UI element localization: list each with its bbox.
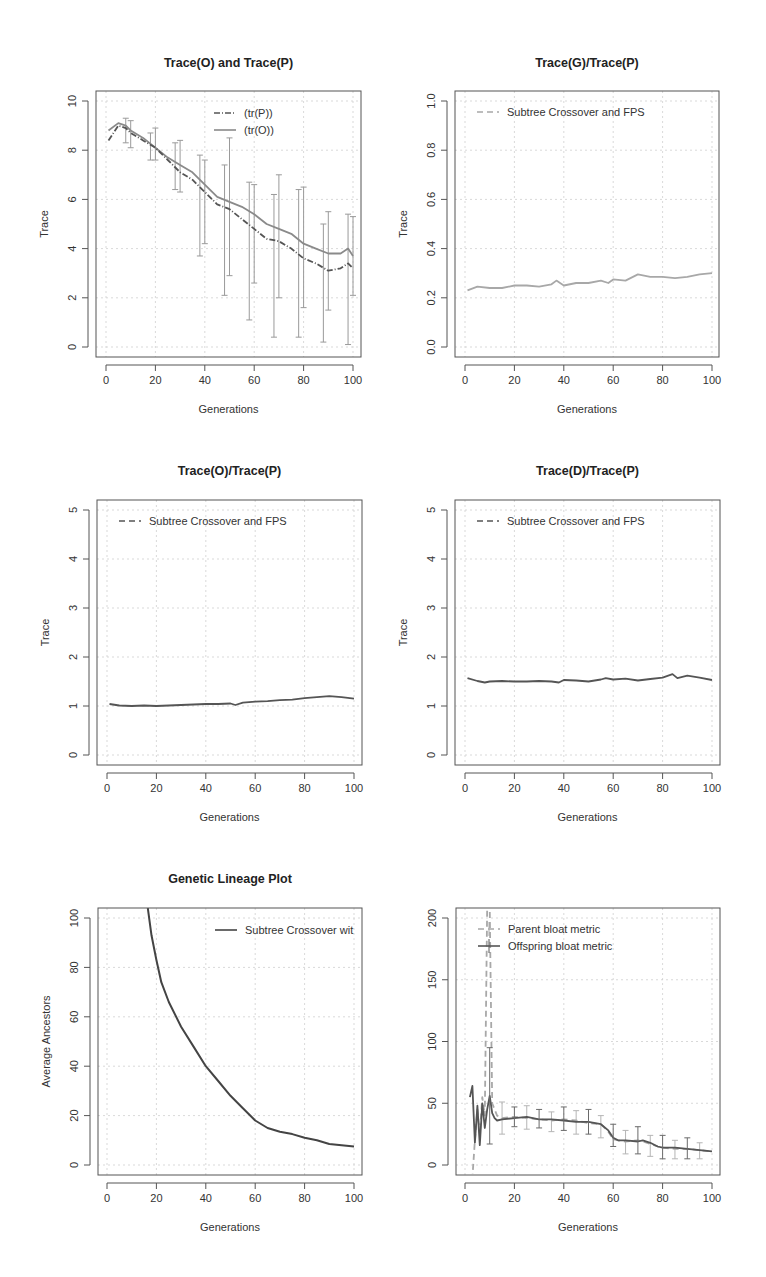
x-axis-label: Generations (558, 811, 618, 823)
grid-lines (455, 91, 719, 357)
y-axis: 0246810Trace (38, 95, 88, 350)
x-tick-label: 0 (104, 1192, 110, 1204)
x-axis-label: Generations (199, 403, 259, 415)
x-tick-label: 60 (607, 374, 619, 386)
legend-label: (tr(P)) (244, 107, 273, 119)
y-tick-label: 1 (67, 703, 79, 709)
legend-label: Offspring bloat metric (508, 940, 613, 952)
chart-title: Trace(O) and Trace(P) (164, 56, 293, 70)
x-axis-label: Generations (557, 403, 617, 415)
x-tick-label: 40 (558, 1192, 570, 1204)
x-axis: 020406080100Generations (462, 1183, 721, 1233)
y-axis: 012345Trace (397, 507, 447, 758)
y-axis: 0.00.20.40.60.81.0Trace (397, 93, 447, 354)
legend-label: Subtree Crossover and FPS (149, 515, 287, 527)
y-tick-label: 0.6 (425, 192, 437, 207)
y-tick-label: 60 (68, 1011, 80, 1023)
x-tick-label: 80 (656, 374, 668, 386)
y-tick-label: 0.2 (425, 290, 437, 305)
x-axis-label: Generations (200, 811, 260, 823)
legend-label: Parent bloat metric (508, 923, 601, 935)
x-tick-label: 100 (703, 374, 721, 386)
x-tick-label: 20 (508, 1192, 520, 1204)
x-tick-label: 0 (462, 782, 468, 794)
y-tick-label: 2 (66, 295, 78, 301)
chart-legend: Subtree Crossover and FPS (477, 515, 645, 527)
y-tick-label: 0 (68, 1162, 80, 1168)
plot-area (110, 696, 355, 706)
plot-area (109, 118, 357, 344)
y-tick-label: 10 (66, 95, 78, 107)
x-axis: 020406080100Generations (462, 365, 721, 415)
x-tick-label: 100 (345, 782, 363, 794)
series-line (468, 674, 713, 682)
y-tick-label: 150 (426, 971, 438, 989)
grid-lines (97, 500, 362, 765)
y-tick-label: 6 (66, 196, 78, 202)
x-axis-label: Generations (200, 1221, 260, 1233)
x-tick-label: 100 (345, 1192, 363, 1204)
plot-frame (97, 500, 362, 765)
chart-panel-trace-o-and-trace-p: 020406080100Generations0246810TraceTrace… (38, 56, 362, 415)
plot-frame (455, 500, 720, 765)
error-bars (123, 118, 356, 344)
y-axis: 012345Trace (39, 507, 89, 758)
y-axis-label: Trace (397, 619, 409, 647)
x-tick-label: 40 (200, 782, 212, 794)
legend-label: Subtree Crossover wit (245, 924, 353, 936)
x-tick-label: 60 (248, 374, 260, 386)
x-tick-label: 60 (249, 1192, 261, 1204)
y-tick-label: 0 (425, 752, 437, 758)
y-tick-label: 5 (425, 507, 437, 513)
y-tick-label: 50 (426, 1097, 438, 1109)
y-tick-label: 0 (66, 344, 78, 350)
error-bars (499, 1102, 703, 1159)
x-tick-label: 80 (656, 1192, 668, 1204)
chart-title: Genetic Lineage Plot (168, 872, 292, 886)
y-tick-label: 3 (425, 605, 437, 611)
y-tick-label: 0.0 (425, 339, 437, 354)
y-tick-label: 4 (67, 556, 79, 562)
y-tick-label: 0.4 (425, 241, 437, 256)
x-axis: 020406080100Generations (103, 365, 362, 415)
chart-legend: Subtree Crossover and FPS (119, 515, 287, 527)
chart-panel-trace-g-over-trace-p: 020406080100Generations0.00.20.40.60.81.… (397, 56, 721, 415)
series-line (109, 123, 354, 256)
y-tick-label: 0.8 (425, 143, 437, 158)
y-tick-label: 2 (425, 654, 437, 660)
y-tick-label: 4 (425, 556, 437, 562)
chart-panel-trace-d-over-trace-p: 020406080100Generations012345TraceTrace(… (397, 464, 721, 823)
y-tick-label: 0 (67, 752, 79, 758)
plot-area (148, 908, 354, 1146)
chart-legend: Subtree Crossover wit (215, 924, 353, 936)
chart-legend: Subtree Crossover and FPS (477, 106, 645, 118)
plot-frame (455, 91, 719, 357)
x-tick-label: 100 (344, 374, 362, 386)
y-axis-label: Average Ancestors (40, 995, 52, 1088)
y-tick-label: 5 (67, 507, 79, 513)
x-tick-label: 20 (150, 782, 162, 794)
y-tick-label: 2 (67, 654, 79, 660)
plot-area (468, 273, 713, 290)
y-axis: 050100150200 (426, 909, 448, 1168)
series-line (470, 1086, 712, 1151)
x-tick-label: 20 (150, 1192, 162, 1204)
chart-title: Trace(D)/Trace(P) (536, 464, 639, 478)
x-tick-label: 60 (249, 782, 261, 794)
series-line (110, 696, 355, 706)
x-tick-label: 60 (607, 782, 619, 794)
y-axis-label: Trace (39, 619, 51, 647)
y-tick-label: 3 (67, 605, 79, 611)
grid-lines (455, 500, 720, 765)
y-tick-label: 80 (68, 961, 80, 973)
x-tick-label: 80 (656, 782, 668, 794)
grid-lines (98, 908, 362, 1175)
series-line (468, 273, 713, 290)
x-tick-label: 80 (297, 374, 309, 386)
chart-legend: Parent bloat metricOffspring bloat metri… (478, 922, 613, 953)
y-axis: 020406080100Average Ancestors (40, 909, 90, 1168)
x-tick-label: 20 (508, 782, 520, 794)
y-axis-label: Trace (397, 210, 409, 238)
x-tick-label: 0 (462, 374, 468, 386)
chart-panel-bloat-metric: 020406080100Generations050100150200Paren… (426, 906, 721, 1233)
